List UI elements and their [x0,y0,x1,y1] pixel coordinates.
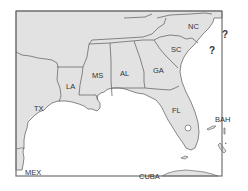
bahamas-island-2 [224,128,225,134]
label-la: LA [66,82,75,91]
label-bah: BAH [215,115,230,124]
question-mark-1: ? [222,29,228,40]
label-ms: MS [92,71,103,80]
southeast-us-map: TX LA MS AL GA SC NC FL MEX CUBA BAH ? ? [0,0,248,191]
label-cuba: CUBA [139,172,160,181]
question-mark-2: ? [209,45,215,56]
florida-lake [185,125,191,131]
label-ga: GA [153,66,164,75]
label-al: AL [120,69,129,78]
label-fl: FL [172,106,181,115]
label-sc: SC [171,45,182,54]
label-nc: NC [188,22,199,31]
label-tx: TX [34,104,44,113]
bahamas-island-4 [225,143,226,144]
label-mex: MEX [25,168,41,177]
